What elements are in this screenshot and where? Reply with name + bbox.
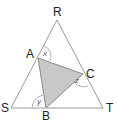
vertex-label-t: T (106, 101, 114, 115)
vertex-label-r: R (53, 5, 62, 19)
geometry-diagram: R S T A B C x y z (0, 0, 117, 121)
vertex-label-s: S (1, 101, 9, 115)
vertex-label-b: B (42, 109, 50, 121)
angle-label-x: x (42, 49, 48, 58)
angle-label-z: z (74, 76, 79, 85)
angle-label-y: y (36, 97, 42, 106)
vertex-label-c: C (86, 67, 95, 81)
vertex-label-a: A (26, 47, 34, 61)
